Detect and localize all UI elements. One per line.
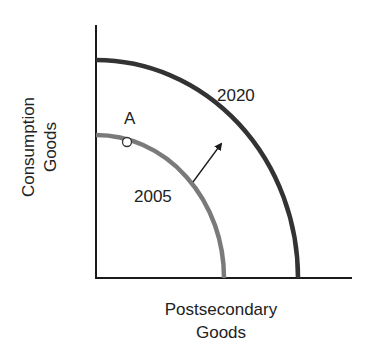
x-axis-title-line2: Goods — [141, 321, 301, 344]
shift-arrow-icon — [193, 144, 221, 182]
y-axis-title-line1: Consumption — [18, 97, 40, 197]
x-axis-title-line1: Postsecondary — [141, 298, 301, 321]
point-a-marker — [123, 138, 132, 147]
ppf-curve-2020 — [96, 60, 298, 278]
curve-label-2020: 2020 — [217, 86, 255, 106]
curve-label-2005: 2005 — [134, 187, 172, 207]
point-a-label: A — [124, 109, 135, 129]
y-axis-title-line2: Goods — [40, 97, 62, 197]
x-axis-title: Postsecondary Goods — [141, 298, 301, 344]
